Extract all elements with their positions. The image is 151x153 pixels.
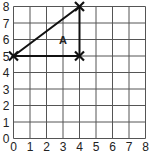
y-tick-label: 0 bbox=[3, 132, 10, 146]
x-tick-label: 8 bbox=[142, 140, 149, 153]
x-tick-label: 7 bbox=[126, 140, 133, 153]
x-tick-label: 3 bbox=[60, 140, 67, 153]
x-tick-label: 2 bbox=[43, 140, 50, 153]
y-tick-label: 1 bbox=[3, 116, 10, 130]
x-tick-label: 1 bbox=[27, 140, 34, 153]
y-tick-label: 5 bbox=[3, 50, 10, 64]
y-tick-label: 3 bbox=[3, 83, 10, 97]
x-tick-label: 5 bbox=[93, 140, 100, 153]
y-tick-label: 4 bbox=[3, 66, 10, 80]
y-tick-label: 6 bbox=[3, 33, 10, 47]
x-tick-label: 0 bbox=[10, 140, 17, 153]
coordinate-grid-diagram: 012345678012345678A bbox=[0, 0, 151, 153]
shape-label: A bbox=[59, 34, 67, 46]
y-tick-label: 7 bbox=[3, 17, 10, 31]
y-tick-label: 8 bbox=[3, 0, 10, 14]
x-tick-label: 6 bbox=[109, 140, 116, 153]
x-tick-label: 4 bbox=[76, 140, 83, 153]
y-tick-label: 2 bbox=[3, 99, 10, 113]
